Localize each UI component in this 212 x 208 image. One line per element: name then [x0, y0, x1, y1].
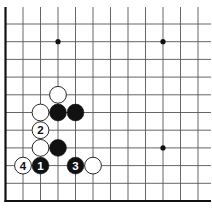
move-number: 1 — [37, 160, 44, 172]
white-stone-move-4: 4 — [15, 157, 32, 174]
black-stone-icon — [50, 104, 67, 121]
white-stone — [32, 140, 49, 157]
white-stone-icon — [50, 86, 67, 103]
go-board: 2413 — [0, 0, 212, 208]
black-stone — [50, 104, 67, 121]
white-stone-move-2: 2 — [32, 122, 49, 139]
black-stone-move-1: 1 — [32, 157, 49, 174]
black-stone — [67, 104, 84, 121]
white-stone — [50, 86, 67, 103]
black-stone-move-3: 3 — [67, 157, 84, 174]
star-point-icon — [160, 145, 165, 150]
star-point-icon — [160, 39, 165, 44]
move-number: 4 — [20, 160, 27, 172]
board-grid — [5, 7, 212, 202]
white-stone — [85, 157, 102, 174]
white-stone — [32, 104, 49, 121]
black-stone — [50, 140, 67, 157]
move-number: 2 — [37, 124, 43, 136]
white-stone-icon — [85, 157, 102, 174]
star-point-icon — [55, 39, 60, 44]
white-stone-icon — [32, 140, 49, 157]
black-stone-icon — [67, 104, 84, 121]
move-number: 3 — [72, 160, 78, 172]
white-stone-icon — [32, 104, 49, 121]
black-stone-icon — [50, 140, 67, 157]
